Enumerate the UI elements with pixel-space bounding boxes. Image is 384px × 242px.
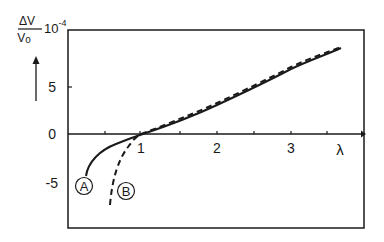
y-scale-label: 10-4	[44, 18, 66, 36]
curve-b	[110, 47, 341, 205]
curve-a-label: A	[80, 179, 89, 194]
curve-a	[86, 48, 341, 176]
x-tick-label-1: 1	[137, 140, 145, 156]
chart: 1 2 3 λ 5 0 -5 ΔV Vo 10-4 A B	[0, 0, 384, 242]
curve-b-label: B	[122, 184, 131, 199]
y-label-numerator: ΔV	[19, 14, 35, 28]
x-tick-label-2: 2	[213, 140, 221, 156]
y-tick-label-5: 5	[48, 79, 56, 95]
x-axis-label: λ	[336, 141, 344, 158]
plot-frame	[68, 30, 364, 228]
y-label-denominator: Vo	[17, 31, 31, 45]
y-tick-label-minus5: -5	[46, 175, 59, 191]
x-tick-label-3: 3	[287, 140, 295, 156]
y-axis-arrow-icon	[33, 56, 40, 64]
y-tick-label-0: 0	[48, 126, 56, 142]
